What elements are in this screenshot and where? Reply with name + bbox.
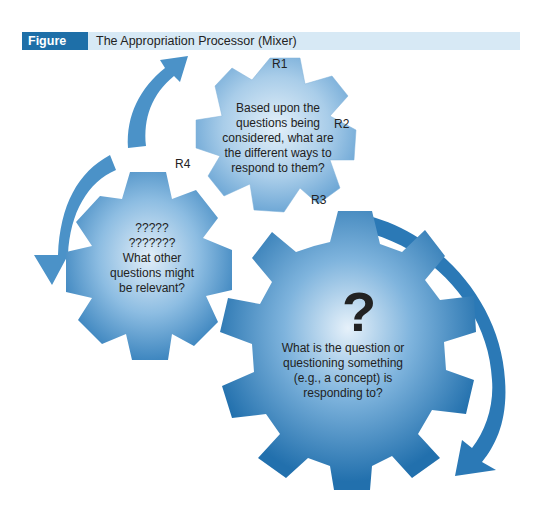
gear-left-text: What other questions might be relevant?	[107, 251, 197, 296]
label-r4: R4	[175, 157, 190, 171]
gear-left-qmarks-2: ???????	[112, 236, 192, 251]
rotation-arrow-top	[128, 56, 188, 148]
gear-big-text: What is the question or questioning some…	[278, 341, 408, 401]
label-r3: R3	[311, 193, 326, 207]
gear-top-text: Based upon the questions being considere…	[213, 101, 343, 176]
question-mark-icon: ?	[342, 284, 376, 340]
label-r1: R1	[272, 57, 287, 71]
gear-left-qmarks-1: ?????	[112, 221, 192, 236]
gear-diagram	[0, 0, 545, 506]
